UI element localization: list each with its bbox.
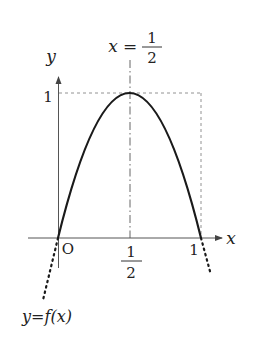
x-tick-half: 1 2	[121, 243, 142, 282]
symmetry-label: x = 1 2	[108, 29, 162, 67]
x-tick-1: 1	[189, 241, 199, 259]
y-tick-1: 1	[43, 88, 53, 106]
origin-label: O	[62, 240, 74, 258]
symmetry-label-lhs: x	[108, 36, 118, 56]
parabola-curve	[58, 93, 201, 238]
y-axis-label: y	[45, 46, 56, 66]
x-tick-half-numerator: 1	[126, 243, 136, 261]
x-tick-half-denominator: 2	[126, 264, 136, 282]
function-graph: y x O 1 1 1 2 x = 1 2 y=f(x)	[0, 0, 253, 339]
symmetry-label-denominator: 2	[147, 49, 157, 67]
curve-extension-left	[43, 238, 58, 300]
symmetry-label-numerator: 1	[147, 29, 157, 47]
symmetry-label-eq: =	[123, 36, 137, 56]
curve-extension-right	[201, 238, 211, 275]
curve-label: y=f(x)	[21, 307, 72, 326]
x-axis-label: x	[226, 228, 236, 248]
